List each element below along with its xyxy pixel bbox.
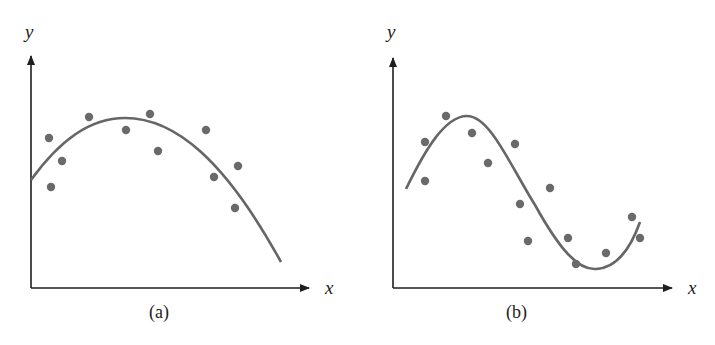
data-point: [45, 134, 53, 142]
data-point: [146, 110, 154, 118]
data-points: [45, 110, 242, 212]
figure: y x (a) y x (b): [0, 0, 715, 345]
data-point: [234, 162, 242, 170]
data-point: [85, 113, 93, 121]
data-point: [516, 200, 524, 208]
data-point: [421, 138, 429, 146]
data-point: [154, 147, 162, 155]
data-point: [628, 213, 636, 221]
data-point: [421, 177, 429, 185]
data-points: [421, 112, 644, 268]
panel-a: y x (a): [23, 21, 334, 323]
y-axis-label: y: [23, 21, 34, 42]
data-point: [524, 237, 532, 245]
data-point: [511, 140, 519, 148]
panel-caption: (b): [506, 302, 527, 323]
fit-curve: [31, 118, 281, 262]
data-point: [442, 112, 450, 120]
x-axis-label: x: [687, 277, 697, 298]
fit-curve: [406, 116, 640, 269]
data-point: [484, 159, 492, 167]
data-point: [572, 260, 580, 268]
data-point: [231, 204, 239, 212]
x-axis-label: x: [324, 277, 334, 298]
data-point: [58, 157, 66, 165]
data-point: [210, 173, 218, 181]
data-point: [546, 184, 554, 192]
data-point: [122, 126, 130, 134]
panel-caption: (a): [149, 302, 169, 323]
panel-b: y x (b): [385, 21, 697, 323]
data-point: [202, 126, 210, 134]
data-point: [636, 234, 644, 242]
y-axis-label: y: [385, 21, 396, 42]
data-point: [47, 183, 55, 191]
data-point: [468, 129, 476, 137]
data-point: [602, 249, 610, 257]
data-point: [564, 234, 572, 242]
